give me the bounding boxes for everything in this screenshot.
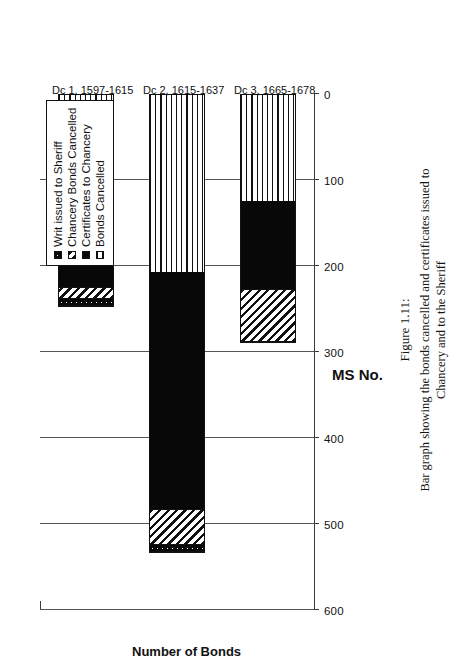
axis-tick	[314, 265, 319, 266]
legend-item: Bonds Cancelled	[94, 108, 107, 259]
axis-tick	[314, 437, 319, 438]
legend-item: Writ issued to Sheriff	[52, 108, 65, 259]
value-tick-label: 100	[324, 175, 344, 187]
legend-item: Certificates to Chancery	[80, 108, 93, 259]
chart-legend: Writ issued to SheriffChancery Bonds Can…	[46, 100, 114, 266]
figure-caption: Figure 1.11: Bar graph showing the bonds…	[397, 150, 449, 510]
bar-2[interactable]	[149, 94, 205, 553]
axis-tick	[314, 351, 319, 352]
category-label: Dc 2, 1615-1637	[143, 84, 224, 96]
bar-segment	[241, 290, 295, 341]
value-tick-label: 300	[324, 347, 344, 359]
category-axis-line	[314, 94, 315, 610]
bar-segment	[241, 201, 295, 291]
legend-label: Bonds Cancelled	[94, 160, 107, 247]
legend-label: Chancery Bonds Cancelled	[66, 108, 79, 247]
bar-segment	[59, 288, 113, 299]
x-axis-title: MS No.	[332, 366, 383, 383]
bar-segment	[59, 299, 113, 307]
axis-tick	[314, 609, 319, 610]
legend-label: Writ issued to Sheriff	[52, 141, 65, 247]
bar-segment	[150, 510, 204, 544]
value-tick-label: 500	[324, 519, 344, 531]
value-tick-label: 600	[324, 605, 344, 617]
gridline	[40, 609, 314, 610]
solid-black-swatch-icon	[82, 251, 90, 259]
axis-tick	[314, 523, 319, 524]
caption-title: Figure 1.11:	[397, 150, 413, 510]
value-tick-label: 400	[324, 433, 344, 445]
legend-label: Certificates to Chancery	[80, 124, 93, 247]
caption-body: Bar graph showing the bonds cancelled an…	[418, 150, 449, 510]
bar-segment	[150, 545, 204, 553]
category-label: Dc 1, 1597-1615	[52, 84, 133, 96]
bar-chart: 0100200300400500600 Dc 1, 1597-1615Dc 2,…	[32, 66, 372, 664]
dotted-black-swatch-icon	[54, 251, 62, 259]
y-axis-title: Number of Bonds	[132, 644, 241, 659]
value-tick-label: 200	[324, 261, 344, 273]
bar-segment	[150, 272, 204, 510]
horizontal-lines-swatch-icon	[96, 251, 104, 259]
legend-item: Chancery Bonds Cancelled	[66, 108, 79, 259]
value-tick-label: 0	[324, 89, 331, 101]
bar-segment	[150, 95, 204, 272]
bar-segment	[241, 95, 295, 201]
diagonal-hatch-swatch-icon	[68, 251, 76, 259]
category-label: Dc 3, 1665-1678	[234, 84, 315, 96]
axis-tick	[314, 179, 319, 180]
bar-3[interactable]	[240, 94, 296, 343]
